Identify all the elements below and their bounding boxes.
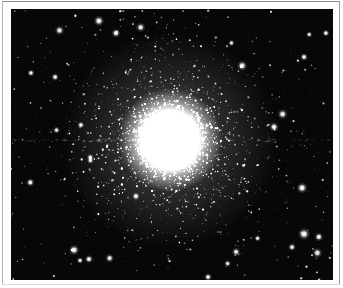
star-cluster-photo	[11, 9, 333, 280]
globular-cluster-image	[11, 9, 333, 280]
page	[0, 0, 343, 288]
